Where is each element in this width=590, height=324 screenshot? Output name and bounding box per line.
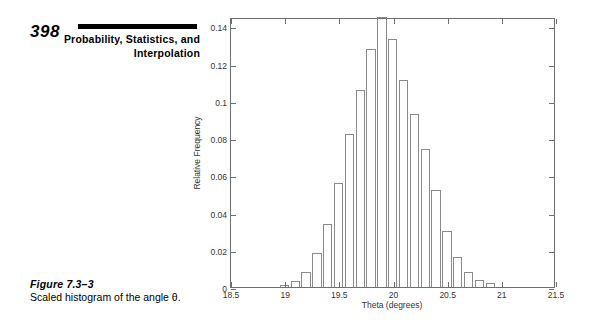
x-tick-mark (448, 282, 449, 287)
histogram-figure: Relative Frequency Theta (degrees) 00.02… (0, 0, 590, 324)
y-tick-label: 0.14 (210, 23, 227, 33)
x-tick-label: 21 (497, 290, 506, 300)
histogram-bar (399, 80, 408, 287)
y-tick-mark (231, 215, 236, 216)
histogram-bar (345, 134, 354, 287)
x-tick-mark (285, 282, 286, 287)
y-tick-mark (231, 66, 236, 67)
histogram-bar (366, 49, 375, 287)
y-tick-mark (231, 103, 236, 104)
x-tick-label: 19.5 (331, 290, 348, 300)
histogram-bar (475, 280, 484, 287)
y-tick-mark (549, 215, 554, 216)
histogram-bar (377, 17, 386, 287)
x-tick-label: 21.5 (548, 290, 565, 300)
x-tick-mark (448, 19, 449, 24)
y-tick-mark (549, 28, 554, 29)
x-tick-mark (231, 282, 232, 287)
y-tick-label: 0.02 (210, 247, 227, 257)
y-tick-mark (231, 177, 236, 178)
y-tick-label: 0.08 (210, 135, 227, 145)
y-tick-label: 0.04 (210, 210, 227, 220)
histogram-bar (431, 190, 440, 287)
histogram-bar (442, 231, 451, 287)
histogram-bar (356, 90, 365, 287)
y-tick-mark (231, 28, 236, 29)
x-tick-mark (502, 282, 503, 287)
x-tick-mark (339, 282, 340, 287)
x-tick-mark (556, 282, 557, 287)
x-tick-mark (556, 19, 557, 24)
histogram-bar (464, 272, 473, 287)
y-axis-title: Relative Frequency (192, 116, 202, 189)
histogram-bar (334, 183, 343, 287)
x-tick-label: 20.5 (439, 290, 456, 300)
x-axis-title: Theta (degrees) (362, 300, 422, 310)
x-tick-mark (394, 19, 395, 24)
plot-area: 00.020.040.060.080.10.120.14 18.51919.52… (230, 18, 555, 288)
y-tick-mark (549, 140, 554, 141)
histogram-bar (410, 114, 419, 287)
x-tick-mark (394, 282, 395, 287)
histogram-bar (453, 257, 462, 287)
x-tick-mark (502, 19, 503, 24)
y-tick-mark (231, 140, 236, 141)
y-tick-label: 0.1 (215, 98, 227, 108)
histogram-bar (312, 253, 321, 287)
x-tick-mark (339, 19, 340, 24)
y-tick-mark (549, 66, 554, 67)
histogram-bars (231, 19, 554, 287)
y-tick-mark (549, 103, 554, 104)
histogram-bar (388, 39, 397, 287)
x-tick-label: 20 (389, 290, 398, 300)
x-tick-mark (285, 19, 286, 24)
y-tick-label: 0.12 (210, 61, 227, 71)
y-tick-label: 0.06 (210, 172, 227, 182)
y-tick-mark (231, 252, 236, 253)
histogram-bar (291, 281, 300, 287)
y-tick-mark (549, 177, 554, 178)
y-tick-mark (549, 252, 554, 253)
x-tick-mark (231, 19, 232, 24)
histogram-bar (486, 283, 495, 287)
x-tick-label: 19 (280, 290, 289, 300)
histogram-bar (301, 272, 310, 287)
x-tick-label: 18.5 (223, 290, 240, 300)
histogram-bar (323, 224, 332, 287)
histogram-bar (421, 149, 430, 287)
